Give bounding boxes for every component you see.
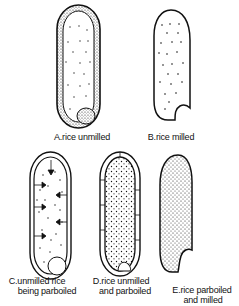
label-a: A.rice unmilled bbox=[52, 132, 112, 142]
grain-d-unmilled-parboiled bbox=[100, 152, 140, 276]
label-b: B.rice milled bbox=[143, 132, 199, 142]
label-e-line1: E.rice parboiled bbox=[165, 285, 239, 295]
label-d-line1: D.rice unmilled bbox=[88, 276, 154, 286]
grain-c-being-parboiled bbox=[30, 152, 71, 279]
label-c-line1: C.unmilled rice bbox=[2, 276, 72, 286]
label-d-line2: and parboiled bbox=[92, 286, 158, 296]
grain-a-unmilled bbox=[57, 5, 100, 128]
rice-grain-diagram bbox=[0, 0, 239, 306]
label-e-line2: and milled bbox=[168, 295, 238, 305]
label-c-line2: being parboiled bbox=[12, 286, 82, 296]
grain-e-parboiled-milled bbox=[160, 155, 192, 272]
grain-b-milled bbox=[154, 10, 190, 120]
